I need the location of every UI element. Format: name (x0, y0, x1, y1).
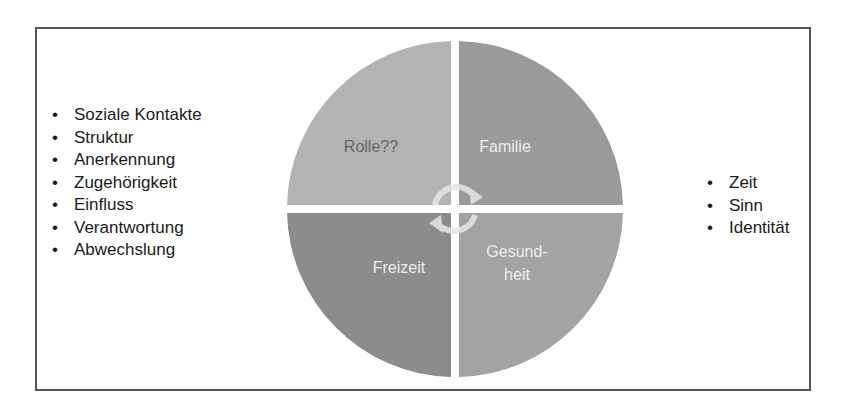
label-gesundheit-1: Gesund- (486, 243, 547, 260)
quadrant-rolle (287, 41, 451, 205)
quadrant-freizeit (287, 213, 451, 377)
list-item: Struktur (48, 127, 202, 150)
quadrant-familie (459, 41, 623, 205)
life-areas-wheel: Rolle?? Familie Freizeit Gesund- heit (285, 37, 627, 383)
list-item: Abwechslung (48, 239, 202, 262)
right-bullet-list: Zeit Sinn Identität (703, 172, 790, 240)
quadrant-gesundheit (459, 213, 623, 377)
label-familie: Familie (479, 138, 531, 155)
list-item: Verantwortung (48, 217, 202, 240)
label-freizeit: Freizeit (373, 259, 426, 276)
list-item: Soziale Kontakte (48, 104, 202, 127)
list-item: Zugehörigkeit (48, 172, 202, 195)
list-item: Anerkennung (48, 149, 202, 172)
list-item: Einfluss (48, 194, 202, 217)
left-bullet-list: Soziale Kontakte Struktur Anerkennung Zu… (48, 104, 202, 262)
list-item: Identität (703, 217, 790, 240)
label-rolle: Rolle?? (344, 138, 398, 155)
list-item: Zeit (703, 172, 790, 195)
list-item: Sinn (703, 195, 790, 218)
label-gesundheit-2: heit (504, 266, 530, 283)
